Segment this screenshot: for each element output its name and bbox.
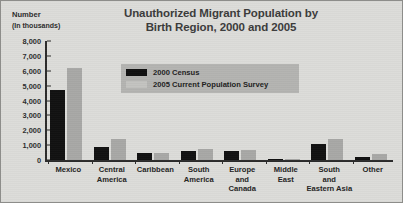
y-axis-tick-label: 4,000 — [23, 96, 42, 105]
bar-group — [179, 41, 223, 160]
y-axis-tick-label: 5,000 — [23, 81, 42, 90]
bar — [137, 153, 152, 160]
chart-legend: 2000 Census 2005 Current Population Surv… — [121, 64, 299, 93]
x-axis-tick-mark — [92, 160, 93, 164]
bar-group — [92, 41, 136, 160]
bar — [111, 139, 126, 160]
bar — [311, 144, 326, 160]
chart-title: Unauthorized Migrant Population by Birth… — [71, 7, 371, 34]
y-axis-label-line-2: (In thousands) — [12, 20, 60, 31]
x-axis-tick-label: Central America — [89, 165, 136, 184]
x-axis-tick-label: Mexico — [45, 165, 92, 175]
legend-item-2000-census: 2000 Census — [126, 68, 199, 77]
x-axis-tick-mark — [353, 160, 354, 164]
x-axis-tick-mark — [135, 160, 136, 164]
x-axis-tick-label: Caribbean — [132, 165, 179, 175]
legend-label-2000-census: 2000 Census — [153, 68, 199, 77]
legend-swatch-2000-census — [126, 69, 147, 76]
x-axis-line — [45, 160, 393, 162]
bar — [94, 147, 109, 160]
x-axis-tick-label: Europe and Canada — [219, 165, 266, 194]
bar — [355, 157, 370, 160]
bar — [154, 153, 169, 160]
bar-group — [309, 41, 353, 160]
y-axis-label-line-1: Number — [12, 9, 60, 20]
bar — [285, 159, 300, 160]
y-axis-tick-label: 0 — [37, 156, 41, 165]
x-axis-tick-mark — [179, 160, 180, 164]
y-axis-tick-label: 6,000 — [23, 66, 42, 75]
y-axis-tick-label: 1,000 — [23, 141, 42, 150]
legend-label-2005-cps: 2005 Current Population Survey — [153, 80, 268, 89]
x-axis-tick-label: Middle East — [263, 165, 310, 184]
bar — [241, 150, 256, 160]
x-axis-tick-label: South America — [176, 165, 223, 184]
plot-area: 01,0002,0003,0004,0005,0006,0007,0008,00… — [45, 41, 393, 160]
bar-group — [48, 41, 92, 160]
chart-figure: Unauthorized Migrant Population by Birth… — [0, 0, 403, 203]
bar-group — [266, 41, 310, 160]
chart-title-line-2: Birth Region, 2000 and 2005 — [146, 21, 297, 33]
bar — [268, 159, 283, 160]
y-axis-tick-label: 3,000 — [23, 111, 42, 120]
bar-group — [353, 41, 397, 160]
bar-group — [222, 41, 266, 160]
x-axis-tick-mark — [309, 160, 310, 164]
y-axis-label: Number (In thousands) — [12, 9, 60, 31]
bar — [224, 151, 239, 160]
legend-swatch-2005-cps — [126, 81, 147, 88]
bar — [328, 139, 343, 160]
x-axis-tick-mark — [222, 160, 223, 164]
bar — [372, 154, 387, 160]
x-axis-tick-label: South and Eastern Asia — [306, 165, 353, 194]
y-axis-tick-label: 7,000 — [23, 51, 42, 60]
x-axis-tick-label: Other — [350, 165, 397, 175]
x-axis-tick-mark — [48, 160, 49, 164]
x-axis-tick-mark — [266, 160, 267, 164]
bar — [198, 149, 213, 160]
bar — [67, 68, 82, 160]
y-axis-tick-label: 2,000 — [23, 126, 42, 135]
legend-item-2005-cps: 2005 Current Population Survey — [126, 80, 268, 89]
bar — [50, 90, 65, 160]
bar-group — [135, 41, 179, 160]
chart-title-line-1: Unauthorized Migrant Population by — [124, 7, 318, 19]
y-axis-tick-label: 8,000 — [23, 37, 42, 46]
bar — [181, 151, 196, 160]
